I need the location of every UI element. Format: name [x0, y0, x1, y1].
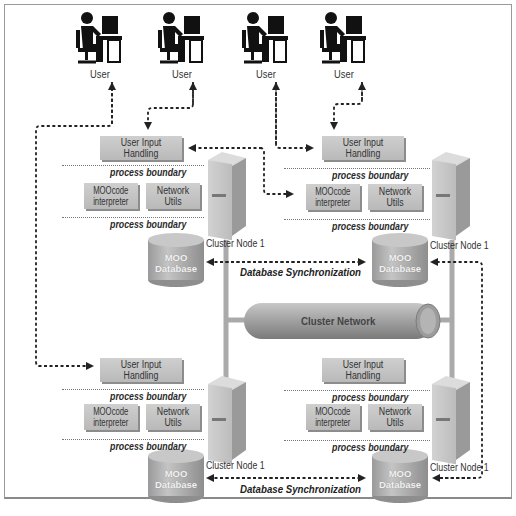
user-input-handling-box: User Input Handling — [100, 136, 182, 160]
moocode-interpreter-box: MOOcodeinterpreter — [306, 184, 360, 210]
process-boundary-label: process boundary — [110, 219, 186, 230]
user-label: User — [241, 68, 292, 80]
process-boundary-label: process boundary — [332, 442, 408, 453]
process-boundary-label: process boundary — [110, 391, 186, 402]
user-at-desk-icon — [72, 10, 128, 66]
network-utils-box: Network Utils — [368, 404, 422, 430]
process-boundary-label: process boundary — [110, 441, 186, 452]
user-label: User — [319, 68, 370, 80]
user-at-desk-icon — [154, 10, 210, 66]
database-sync-label: Database Synchronization — [240, 483, 361, 495]
cluster-network-label: Cluster Network — [301, 315, 375, 327]
process-boundary-label: process boundary — [332, 392, 408, 403]
cluster-node-label: Cluster Node 1 — [430, 240, 489, 251]
cluster-node-label: Cluster Node 1 — [430, 462, 489, 473]
user-3: User — [236, 10, 296, 80]
process-boundary-line — [62, 389, 204, 390]
moo-database-label: MOODatabase — [148, 252, 204, 274]
cluster-node-label: Cluster Node 1 — [206, 460, 265, 471]
process-boundary-line — [62, 439, 204, 440]
network-utils-box: Network Utils — [146, 404, 200, 430]
cluster-node-label: Cluster Node 1 — [206, 238, 265, 249]
user-input-handling-box: User Input Handling — [100, 358, 182, 382]
network-utils-box: Network Utils — [146, 183, 200, 209]
user-at-desk-icon — [238, 10, 294, 66]
process-boundary-line — [62, 165, 204, 166]
moocode-interpreter-box: MOOcodeinterpreter — [306, 404, 360, 430]
moo-database-label: MOODatabase — [148, 468, 204, 490]
moo-database-label: MOODatabase — [372, 468, 428, 490]
database-sync-label: Database Synchronization — [240, 266, 361, 278]
moocode-interpreter-box: MOOcodeinterpreter — [84, 183, 138, 209]
process-boundary-label: process boundary — [110, 167, 186, 178]
process-boundary-line — [284, 390, 430, 391]
process-boundary-line — [284, 168, 430, 169]
process-boundary-label: process boundary — [332, 170, 408, 181]
network-utils-box: Network Utils — [368, 184, 422, 210]
user-input-handling-box: User Input Handling — [322, 136, 404, 160]
user-input-handling-box: User Input Handling — [322, 358, 404, 382]
user-2: User — [152, 10, 212, 80]
process-boundary-line — [284, 440, 430, 441]
moo-database-label: MOODatabase — [372, 252, 428, 274]
process-boundary-line — [284, 219, 430, 220]
process-boundary-label: process boundary — [332, 221, 408, 232]
user-label: User — [75, 68, 126, 80]
moocode-interpreter-box: MOOcodeinterpreter — [84, 404, 138, 430]
user-1: User — [70, 10, 130, 80]
process-boundary-line — [62, 217, 204, 218]
user-label: User — [157, 68, 208, 80]
user-at-desk-icon — [316, 10, 372, 66]
user-4: User — [314, 10, 374, 80]
